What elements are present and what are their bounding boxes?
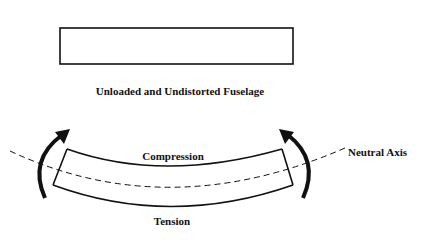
unloaded-caption: Unloaded and Undistorted Fuselage	[96, 85, 265, 97]
bent-bottom-edge	[53, 185, 293, 207]
bent-left-edge	[53, 149, 67, 185]
right-moment-arrow-icon	[288, 135, 309, 198]
tension-label: Tension	[154, 215, 190, 227]
neutral-axis-label: Neutral Axis	[348, 146, 408, 158]
unloaded-fuselage-rect	[60, 28, 293, 64]
left-moment-arrow-icon	[39, 135, 62, 198]
compression-label: Compression	[142, 150, 204, 162]
fuselage-bending-diagram: Unloaded and Undistorted Fuselage Compre…	[0, 0, 430, 243]
bent-right-edge	[282, 149, 293, 185]
